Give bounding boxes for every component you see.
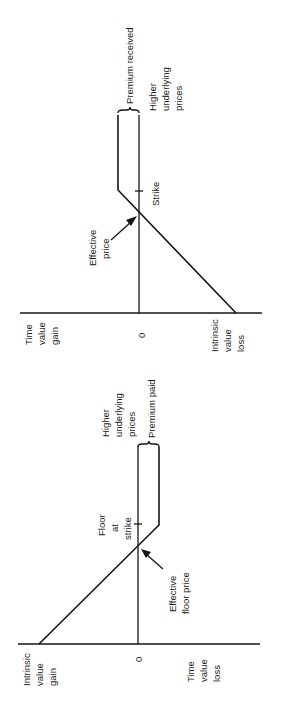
label-zero: 0	[136, 333, 147, 338]
svg-text:strike: strike	[122, 517, 133, 540]
svg-text:prices: prices	[173, 85, 184, 111]
label-intrinsic-value-gain: Intrinsic value gain	[21, 653, 58, 686]
label-premium-received: Premium received	[124, 27, 135, 104]
svg-text:Intrinsic: Intrinsic	[21, 653, 32, 686]
svg-text:underlying: underlying	[113, 393, 124, 437]
label-strike: Strike	[150, 182, 161, 206]
svg-text:loss: loss	[235, 335, 246, 352]
svg-text:0: 0	[136, 333, 147, 338]
diagram-bottom: Intrinsic value gain 0 Time value loss H…	[18, 379, 260, 686]
svg-text:Higher: Higher	[147, 83, 158, 111]
payoff-line	[118, 115, 236, 313]
svg-text:Strike: Strike	[150, 182, 161, 206]
label-effective-price: Effective price	[87, 230, 111, 266]
label-higher-prices: Higher underlying prices	[100, 393, 137, 437]
svg-text:Time: Time	[185, 661, 196, 682]
label-premium-paid: Premium paid	[146, 379, 157, 438]
diagram-top: Time value gain 0 Intrinsic value loss H…	[20, 27, 262, 352]
payoff-diagrams: Time value gain 0 Intrinsic value loss H…	[0, 0, 287, 704]
svg-text:at: at	[109, 524, 120, 532]
svg-text:value: value	[36, 322, 47, 345]
svg-text:price: price	[100, 238, 111, 259]
svg-text:value: value	[222, 329, 233, 352]
svg-text:loss: loss	[211, 665, 222, 682]
svg-text:value: value	[198, 659, 209, 682]
label-time-value-loss: Time value loss	[185, 659, 222, 682]
svg-text:prices: prices	[126, 411, 137, 437]
effective-floor-arrow	[146, 554, 163, 569]
label-zero: 0	[133, 657, 144, 662]
svg-text:0: 0	[133, 657, 144, 662]
svg-text:Premium paid: Premium paid	[146, 379, 157, 438]
svg-text:value: value	[34, 663, 45, 686]
svg-text:gain: gain	[47, 668, 58, 686]
label-effective-floor-price: Effective floor price	[167, 572, 191, 614]
label-intrinsic-value-loss: Intrinsic value loss	[209, 319, 246, 352]
svg-text:Premium received: Premium received	[124, 27, 135, 104]
svg-text:gain: gain	[49, 327, 60, 345]
label-floor-at-strike: Floor at strike	[96, 514, 133, 540]
payoff-line	[39, 447, 159, 644]
label-higher-prices: Higher underlying prices	[147, 67, 184, 111]
svg-text:underlying: underlying	[160, 67, 171, 111]
svg-text:Effective: Effective	[87, 230, 98, 266]
svg-text:Higher: Higher	[100, 409, 111, 437]
svg-text:Effective: Effective	[167, 576, 178, 612]
premium-brace	[138, 441, 159, 447]
svg-text:floor price: floor price	[180, 572, 191, 614]
svg-text:Floor: Floor	[96, 514, 107, 536]
effective-price-arrow	[111, 222, 131, 240]
premium-brace	[118, 107, 139, 113]
svg-text:Time: Time	[23, 324, 34, 345]
label-time-value-gain: Time value gain	[23, 322, 60, 345]
svg-text:Intrinsic: Intrinsic	[209, 319, 220, 352]
